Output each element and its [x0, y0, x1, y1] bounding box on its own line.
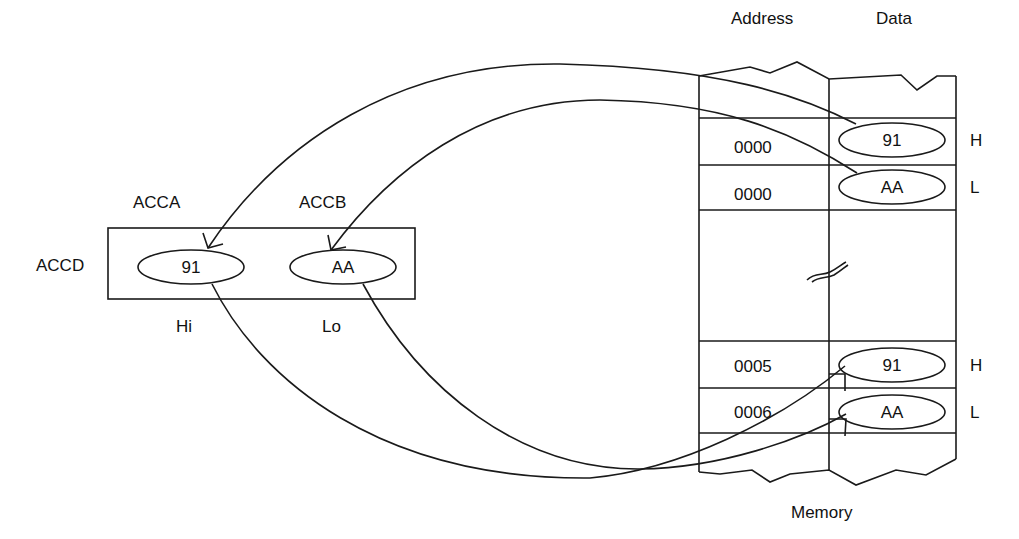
- byte-label: H: [970, 356, 982, 375]
- memory-row: 0005 91 H: [734, 348, 982, 382]
- register-accd: ACCD ACCA ACCB 91 AA Hi Lo: [36, 193, 415, 336]
- accb-value: AA: [332, 258, 355, 277]
- byte-label: H: [970, 131, 982, 150]
- byte-label: L: [970, 403, 979, 422]
- memory-row: 0006 AA L: [734, 395, 979, 429]
- acca-value: 91: [182, 258, 201, 277]
- memory-row: 0000 AA L: [734, 170, 979, 204]
- data-cell: AA: [881, 403, 904, 422]
- accd-label: ACCD: [36, 256, 84, 275]
- memory-row: 0000 91 H: [734, 123, 982, 157]
- lo-label: Lo: [322, 317, 341, 336]
- accb-label: ACCB: [299, 193, 346, 212]
- data-column-header: Data: [876, 9, 912, 28]
- store-arrow-high: [212, 284, 845, 478]
- store-arrow-low: [363, 284, 846, 469]
- address-cell: 0000: [734, 138, 772, 157]
- hi-label: Hi: [176, 317, 192, 336]
- data-cell: 91: [883, 356, 902, 375]
- address-cell: 0005: [734, 357, 772, 376]
- byte-label: L: [970, 178, 979, 197]
- accd-memory-transfer-diagram: Address Data 0000 91 H 0000 AA L 0005: [0, 0, 1019, 539]
- address-column-header: Address: [731, 9, 793, 28]
- memory-title: Memory: [791, 503, 853, 522]
- data-cell: AA: [881, 178, 904, 197]
- address-cell: 0000: [734, 185, 772, 204]
- data-cell: 91: [883, 131, 902, 150]
- acca-label: ACCA: [133, 193, 181, 212]
